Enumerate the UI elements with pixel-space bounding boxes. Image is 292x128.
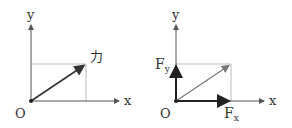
fx-label: Fx — [224, 106, 239, 123]
resultant-vector — [176, 66, 229, 102]
right-origin-label: O — [160, 107, 171, 120]
left-origin-label: O — [15, 107, 26, 120]
right-y-axis-label: y — [172, 8, 179, 21]
fy-label: Fy — [155, 57, 170, 74]
force-vector — [31, 66, 84, 102]
left-x-axis-label: x — [124, 94, 131, 107]
force-label: 力 — [90, 50, 103, 63]
left-diagram — [29, 25, 119, 103]
diagram-canvas: y x O 力 y x O Fy Fx — [0, 0, 292, 128]
fy-label-sub: y — [165, 64, 170, 74]
right-x-axis-label: x — [269, 94, 276, 107]
force-diagrams-svg — [0, 0, 292, 128]
origin-dot — [29, 99, 33, 103]
origin-dot — [174, 99, 178, 103]
fy-label-main: F — [155, 56, 165, 72]
fx-label-main: F — [224, 105, 234, 121]
left-y-axis-label: y — [27, 8, 34, 21]
right-diagram — [174, 25, 264, 103]
fx-label-sub: x — [234, 113, 239, 123]
